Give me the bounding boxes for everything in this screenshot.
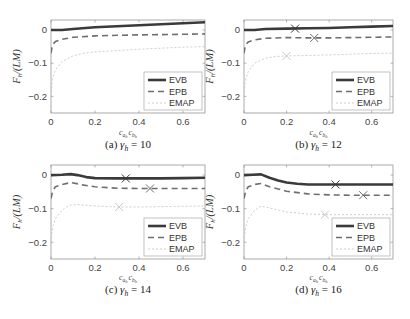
y-tick-label: −0.1 [28, 203, 47, 214]
x-tick-label: 0.4 [132, 116, 145, 127]
legend-label-emap: EMAP [357, 244, 383, 254]
legend-label-epb: EPB [357, 87, 375, 97]
y-axis-label: Fh/(LM) [11, 49, 24, 85]
legend: EVBEPBEMAP [144, 72, 202, 110]
panel-c: 00.20.40.60−0.1−0.2EVBEPBEMAPFh/(LM)cahc… [11, 165, 205, 298]
x-tick-label: 0 [48, 116, 53, 127]
x-tick-label: 0.2 [88, 116, 101, 127]
legend: EVBEPBEMAP [144, 218, 202, 256]
x-tick-label: 0.2 [88, 262, 101, 273]
panel-b: 00.20.40.60−0.1−0.2EVBEPBEMAPFh/(LM)cahc… [204, 20, 393, 153]
figure-grid: 00.20.40.60−0.1−0.2EVBEPBEMAPFh/(LM)cahc… [0, 0, 410, 319]
y-tick-label: −0.2 [221, 237, 240, 248]
y-tick-label: −0.1 [221, 57, 240, 68]
y-tick-label: −0.1 [221, 203, 240, 214]
y-tick-label: −0.2 [28, 91, 47, 102]
y-tick-label: 0 [42, 169, 47, 180]
x-tick-label: 0 [241, 262, 246, 273]
legend-label-evb: EVB [357, 221, 375, 231]
x-tick-label: 0.4 [323, 262, 336, 273]
y-axis-label: Fh/(LM) [204, 194, 217, 230]
legend-label-emap: EMAP [357, 98, 383, 108]
legend-label-emap: EMAP [169, 244, 195, 254]
legend-label-evb: EVB [169, 75, 187, 85]
x-tick-label: 0.6 [176, 116, 189, 127]
legend-label-epb: EPB [169, 233, 187, 243]
x-tick-label: 0.2 [280, 262, 293, 273]
x-tick-label: 0.6 [365, 262, 378, 273]
legend: EVBEPBEMAP [332, 218, 390, 256]
x-tick-label: 0.4 [132, 262, 145, 273]
y-axis-label: Fh/(LM) [11, 194, 24, 230]
y-tick-label: −0.2 [28, 237, 47, 248]
x-tick-label: 0 [48, 262, 53, 273]
panel-caption: (a) γh = 10 [105, 138, 151, 153]
y-tick-label: 0 [235, 24, 240, 35]
legend-label-epb: EPB [169, 87, 187, 97]
y-tick-label: 0 [42, 24, 47, 35]
panel-d: 00.20.40.60−0.1−0.2EVBEPBEMAPFh/(LM)cahc… [204, 165, 393, 298]
panel-a: 00.20.40.60−0.1−0.2EVBEPBEMAPFh/(LM)cahc… [11, 20, 205, 153]
panel-caption: (d) γh = 16 [295, 283, 342, 298]
x-tick-label: 0.6 [365, 116, 378, 127]
y-tick-label: −0.2 [221, 91, 240, 102]
x-tick-label: 0.2 [280, 116, 293, 127]
panel-caption: (c) γh = 14 [105, 283, 151, 298]
x-tick-label: 0 [241, 116, 246, 127]
legend-label-epb: EPB [357, 233, 375, 243]
legend: EVBEPBEMAP [332, 72, 390, 110]
legend-label-evb: EVB [357, 75, 375, 85]
y-tick-label: −0.1 [28, 57, 47, 68]
legend-label-emap: EMAP [169, 98, 195, 108]
x-tick-label: 0.4 [323, 116, 336, 127]
chart-canvas: 00.20.40.60−0.1−0.2EVBEPBEMAPFh/(LM)cahc… [0, 0, 410, 319]
y-axis-label: Fh/(LM) [204, 49, 217, 85]
legend-label-evb: EVB [169, 221, 187, 231]
panel-caption: (b) γh = 12 [295, 138, 341, 153]
x-tick-label: 0.6 [176, 262, 189, 273]
y-tick-label: 0 [235, 169, 240, 180]
